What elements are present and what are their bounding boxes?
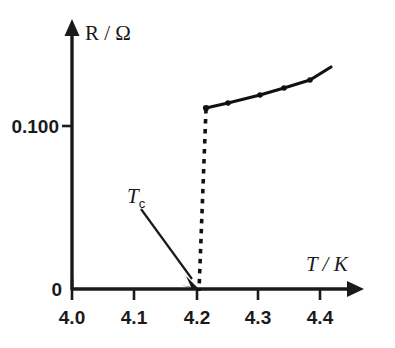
origin-label: 0 — [51, 279, 62, 300]
annotation-label-subscript: c — [139, 196, 146, 211]
svg-text:T / K: T / K — [306, 252, 349, 276]
y-axis-title-unit: Ω — [115, 21, 131, 45]
data-point-marker — [281, 85, 287, 91]
resistance-vs-temperature-chart: 0.100 R / Ω 4.0 4.1 4.2 4.3 4.4 0 — [0, 0, 395, 348]
x-axis-title: T / K — [306, 252, 349, 276]
x-axis-tick-label-40: 4.0 — [59, 307, 85, 328]
data-point-marker — [225, 100, 231, 106]
x-axis-tick-label-43: 4.3 — [245, 307, 271, 328]
chart-figure: 0.100 R / Ω 4.0 4.1 4.2 4.3 4.4 0 — [0, 0, 395, 348]
x-axis-tick-label-42: 4.2 — [184, 307, 210, 328]
x-axis-tick-label-44: 4.4 — [307, 307, 334, 328]
data-point-marker — [203, 105, 209, 111]
x-axis-title-separator: / — [317, 252, 333, 276]
data-point-marker — [307, 77, 313, 83]
y-axis-title-symbol: R — [85, 21, 99, 45]
x-axis-tick-label-41: 4.1 — [121, 307, 148, 328]
y-axis-title: R / Ω — [85, 21, 131, 45]
y-axis-tick-label-0100: 0.100 — [11, 116, 59, 137]
svg-text:R / Ω: R / Ω — [85, 21, 131, 45]
data-point-marker — [257, 92, 263, 98]
y-axis-title-separator: / — [99, 21, 115, 45]
x-axis-title-unit: K — [333, 252, 349, 276]
